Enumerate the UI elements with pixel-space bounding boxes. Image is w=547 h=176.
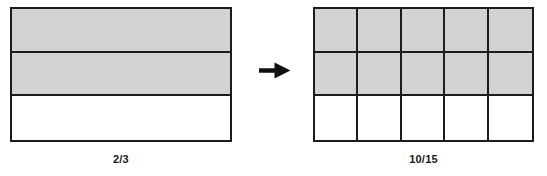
cell-r3-c4-empty (445, 96, 488, 140)
cell-r2-c2-shaded (358, 53, 401, 97)
two-thirds-model-label: 2/3 (10, 153, 232, 165)
cell-r1-c2-shaded (358, 9, 401, 53)
ten-fifteenths-model-grid (313, 7, 534, 142)
cell-r3-c1-empty (12, 96, 230, 140)
right-arrow-icon (259, 62, 291, 79)
cell-r3-c1-empty (315, 96, 358, 140)
cell-r2-c1-shaded (315, 53, 358, 97)
cell-r1-c1-shaded (315, 9, 358, 53)
cell-r2-c1-shaded (12, 53, 230, 97)
cell-r3-c5-empty (489, 96, 532, 140)
two-thirds-model: 2/3 (10, 7, 232, 171)
cell-r2-c5-shaded (489, 53, 532, 97)
cell-r2-c4-shaded (445, 53, 488, 97)
cell-r1-c1-shaded (12, 9, 230, 53)
cell-r1-c5-shaded (489, 9, 532, 53)
cell-r2-c3-shaded (402, 53, 445, 97)
cell-r1-c4-shaded (445, 9, 488, 53)
two-thirds-model-grid (10, 7, 232, 142)
cell-r3-c2-empty (358, 96, 401, 140)
cell-r3-c3-empty (402, 96, 445, 140)
cell-r1-c3-shaded (402, 9, 445, 53)
equivalent-fractions-figure: 2/310/15 (0, 0, 547, 176)
ten-fifteenths-model: 10/15 (313, 7, 534, 171)
ten-fifteenths-model-label: 10/15 (313, 153, 534, 165)
